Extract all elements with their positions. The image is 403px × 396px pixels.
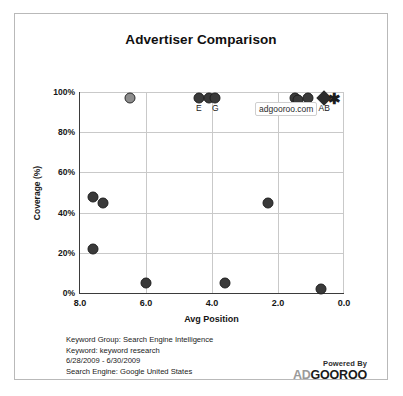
adgooroo-logo: ADGOOROO bbox=[293, 369, 367, 382]
plot-right-edge bbox=[343, 92, 344, 293]
adgooroo-logo-prefix: AD bbox=[293, 368, 311, 382]
data-point-label: G bbox=[212, 103, 219, 113]
metadata-line: Search Engine: Google United States bbox=[66, 367, 213, 378]
y-axis-tick-label: 60% bbox=[58, 167, 75, 177]
x-axis-tick-label: 0.0 bbox=[338, 298, 351, 308]
gridline-vertical bbox=[146, 92, 147, 293]
watermark-annotation: adgooroo.com bbox=[255, 102, 317, 116]
x-axis-tick-label: 6.0 bbox=[140, 298, 153, 308]
y-axis-label: Coverage (%) bbox=[32, 166, 42, 220]
adgooroo-logo-suffix: GOOROO bbox=[311, 368, 367, 382]
metadata-line: Keyword Group: Search Engine Intelligenc… bbox=[66, 335, 213, 346]
metadata-line: 6/28/2009 - 6/30/2009 bbox=[66, 356, 213, 367]
data-point[interactable] bbox=[88, 243, 99, 254]
data-point-label: E bbox=[196, 103, 202, 113]
plot-area: EGDFCAB✱ 0%20%40%60%80%100%8.06.04.02.00… bbox=[79, 92, 344, 294]
x-axis-label: Avg Position bbox=[79, 314, 344, 324]
y-axis-tick-label: 100% bbox=[53, 87, 75, 97]
data-point[interactable] bbox=[315, 283, 326, 294]
data-point[interactable]: ✱ bbox=[328, 92, 341, 105]
page-title: Advertiser Comparison bbox=[15, 32, 387, 47]
branding-block: Powered By ADGOOROO bbox=[293, 359, 367, 382]
data-point-g[interactable] bbox=[210, 93, 221, 104]
gridline-vertical bbox=[212, 92, 213, 293]
x-axis-tick-label: 4.0 bbox=[206, 298, 219, 308]
x-axis-tick-label: 8.0 bbox=[74, 298, 87, 308]
y-axis-tick-label: 40% bbox=[58, 208, 75, 218]
gridline-vertical bbox=[278, 92, 279, 293]
data-point[interactable] bbox=[263, 197, 274, 208]
data-point[interactable] bbox=[220, 277, 231, 288]
data-point[interactable] bbox=[124, 93, 135, 104]
y-axis-tick-label: 20% bbox=[58, 248, 75, 258]
y-axis-tick-label: 0% bbox=[63, 288, 75, 298]
data-point[interactable] bbox=[98, 197, 109, 208]
x-axis-tick-label: 2.0 bbox=[272, 298, 285, 308]
metadata-line: Keyword: keyword research bbox=[66, 346, 213, 357]
powered-by-label: Powered By bbox=[293, 359, 367, 368]
data-point[interactable] bbox=[141, 277, 152, 288]
report-metadata: Keyword Group: Search Engine Intelligenc… bbox=[66, 335, 213, 377]
plot-inner: EGDFCAB✱ bbox=[80, 92, 344, 293]
report-frame: Advertiser Comparison Coverage (%) Avg P… bbox=[14, 13, 388, 380]
y-axis-tick-label: 80% bbox=[58, 127, 75, 137]
